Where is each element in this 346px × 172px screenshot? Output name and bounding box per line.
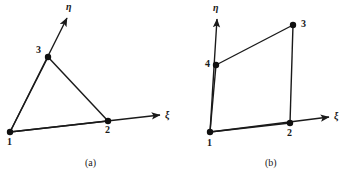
quadrilateral-element-nodes: [207, 22, 296, 135]
element-node-marker: [7, 129, 13, 135]
xi-axis-label-a: ξ: [165, 110, 170, 120]
element-node-marker: [207, 129, 213, 135]
panel-a-axes: [10, 18, 160, 132]
panel-caption-b: (b): [265, 158, 277, 168]
element-edge: [210, 123, 290, 132]
element-edge: [10, 57, 48, 132]
node-label-b-4: 4: [205, 59, 210, 69]
triangle-element-edges: [10, 57, 108, 132]
node-label-b-1: 1: [207, 138, 212, 148]
element-node-marker: [287, 120, 293, 126]
element-edge: [290, 25, 293, 123]
xi-axis-label-b: ξ: [334, 111, 339, 121]
element-edge: [216, 25, 293, 65]
node-label-b-3: 3: [301, 19, 306, 29]
eta-axis-label-a: η: [66, 2, 72, 12]
node-label-b-2: 2: [287, 128, 292, 138]
quadrilateral-element-edges: [210, 25, 293, 132]
node-label-a-3: 3: [36, 45, 41, 55]
figure-canvas: [0, 0, 346, 172]
figure-root: η ξ 1 2 3 (a) η ξ 1 2 3 4 (b): [0, 0, 346, 172]
panel-caption-a: (a): [85, 158, 96, 168]
eta-axis-label-b: η: [213, 3, 219, 13]
node-label-a-2: 2: [105, 125, 110, 135]
element-edge: [48, 57, 108, 121]
element-node-marker: [45, 54, 51, 60]
node-label-a-1: 1: [7, 137, 12, 147]
element-node-marker: [213, 62, 219, 68]
panel-b-axes: [210, 19, 329, 132]
element-edge: [10, 121, 108, 132]
element-node-marker: [290, 22, 296, 28]
